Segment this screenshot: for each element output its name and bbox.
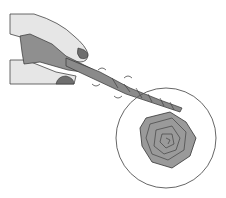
rose-twisting-illustration [0,0,226,198]
twisted-stem [66,58,182,112]
illustration-canvas [0,0,226,198]
rose-bloom [140,112,196,168]
